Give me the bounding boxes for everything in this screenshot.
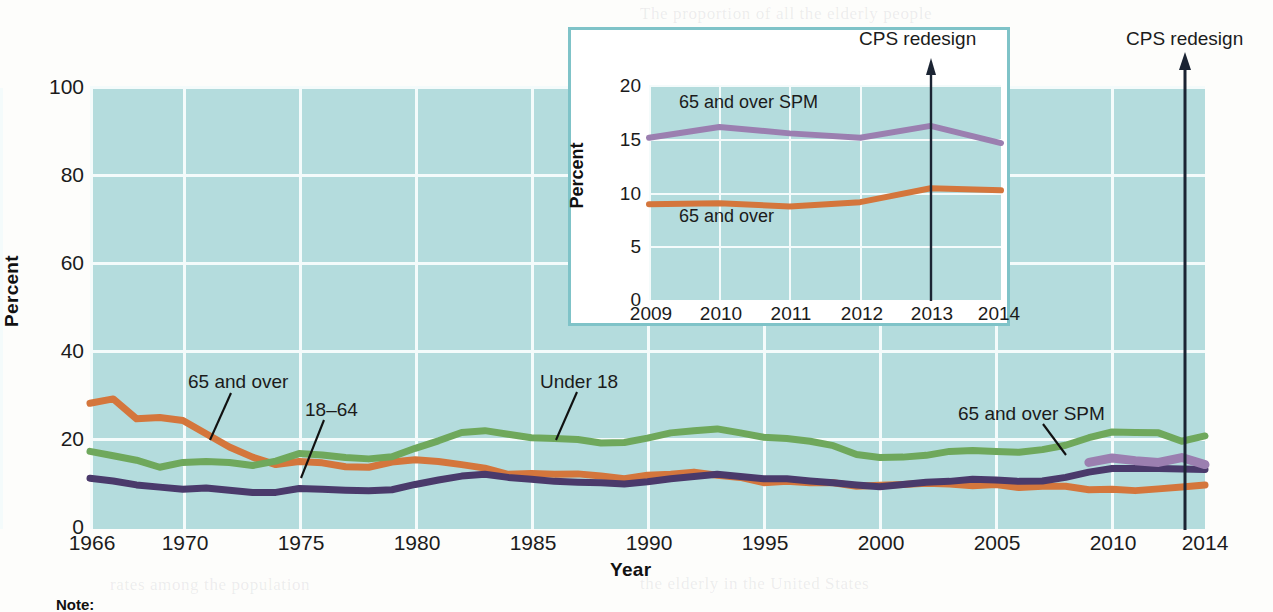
note-label: Note: (56, 596, 94, 612)
figure-canvas: The proportion of all the elderly people… (0, 0, 1273, 612)
cps-redesign-arrow-inset (571, 30, 1013, 329)
inset-chart: 20 15 10 5 0 2009 2010 2011 2012 2013 20… (568, 27, 1010, 326)
